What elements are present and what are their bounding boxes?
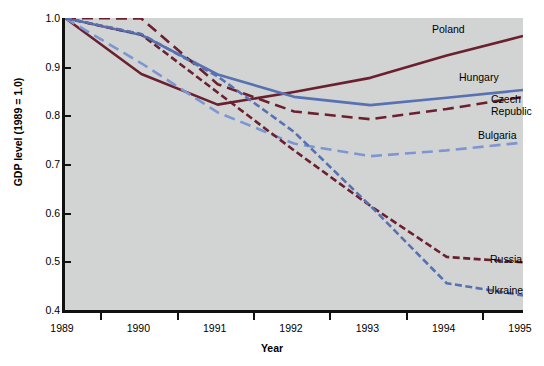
x-tick-label: 1989 (32, 322, 92, 334)
series-line-bulgaria (65, 18, 523, 156)
y-tick-mark (62, 261, 71, 263)
x-tick-mark (329, 311, 331, 320)
series-label-hungary: Hungary (459, 72, 499, 83)
series-label-poland: Poland (432, 24, 465, 35)
y-tick-mark (62, 164, 71, 166)
y-tick-label: 0.4 (26, 305, 60, 315)
x-tick-mark (100, 311, 102, 320)
plot-lines (65, 18, 523, 310)
series-label-czech: Czech (491, 94, 521, 105)
y-tick-label: 0.9 (26, 62, 60, 72)
x-tick-label: 1990 (108, 322, 168, 334)
x-tick-label: 1991 (185, 322, 245, 334)
y-tick-mark (62, 115, 71, 117)
y-tick-label: 1.0 (26, 13, 60, 23)
y-axis-ticks: 1.00.90.80.70.60.50.4 (16, 0, 60, 330)
y-tick-label: 0.8 (26, 110, 60, 120)
figure-container: GDP level (1989 = 1.0) 1.00.90.80.70.60.… (0, 0, 544, 366)
series-label-ukraine: Ukraine (487, 285, 523, 296)
series-label-republic: Republic (491, 106, 532, 117)
y-tick-mark (62, 67, 71, 69)
x-tick-mark (406, 311, 408, 320)
x-tick-label: 1995 (490, 322, 544, 334)
y-tick-label: 0.5 (26, 256, 60, 266)
x-tick-label: 1993 (337, 322, 397, 334)
series-line-ukraine (65, 18, 523, 295)
y-tick-label: 0.7 (26, 159, 60, 169)
x-axis-title: Year (0, 342, 544, 354)
x-tick-mark (177, 311, 179, 320)
y-tick-mark (62, 213, 71, 215)
plot-area (62, 18, 523, 313)
x-tick-label: 1992 (261, 322, 321, 334)
series-label-bulgaria: Bulgaria (478, 130, 517, 141)
x-tick-label: 1994 (414, 322, 474, 334)
x-tick-mark (253, 311, 255, 320)
x-tick-mark (482, 311, 484, 320)
series-label-russia: Russia (490, 254, 522, 265)
y-tick-label: 0.6 (26, 208, 60, 218)
